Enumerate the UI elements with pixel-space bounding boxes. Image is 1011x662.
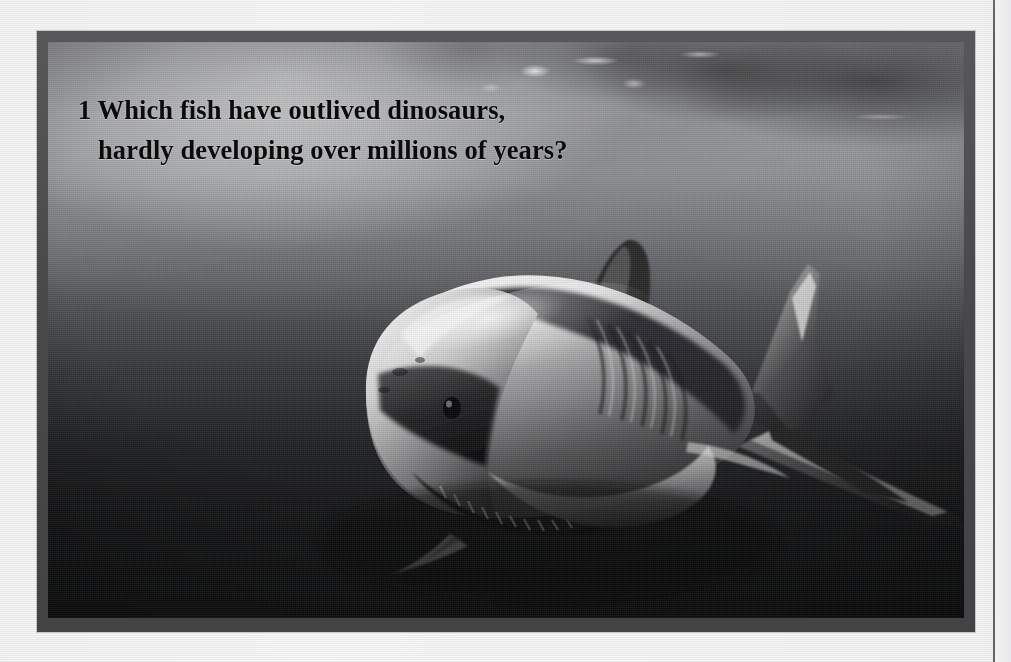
shark-photograph: 1 Which fish have outlived dinosaurs, ha… xyxy=(48,42,964,618)
question-line-1: 1 Which fish have outlived dinosaurs, xyxy=(78,90,638,130)
photo-frame: 1 Which fish have outlived dinosaurs, ha… xyxy=(37,31,975,632)
page-right-margin xyxy=(995,0,1011,662)
scanned-page: 1 Which fish have outlived dinosaurs, ha… xyxy=(0,0,1011,662)
question-line-2: hardly developing over millions of years… xyxy=(78,130,638,170)
page-edge-line xyxy=(993,0,995,662)
quiz-question: 1 Which fish have outlived dinosaurs, ha… xyxy=(78,90,638,170)
